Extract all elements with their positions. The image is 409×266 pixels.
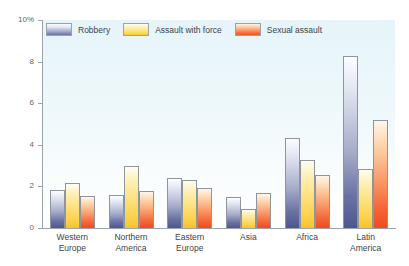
bar-3-1[interactable] bbox=[241, 209, 256, 228]
y-tick-label-4: 4 bbox=[0, 141, 34, 149]
bar-0-2[interactable] bbox=[80, 196, 95, 228]
y-tick-label-0: 0 bbox=[0, 224, 34, 232]
y-tick-label-2: 2 bbox=[0, 182, 34, 190]
bar-group-bars-0 bbox=[43, 20, 102, 228]
bar-4-2[interactable] bbox=[315, 175, 330, 228]
category-label-4: Africa bbox=[278, 232, 337, 253]
bar-group-4 bbox=[278, 20, 337, 228]
y-tick-mark-8 bbox=[38, 62, 42, 63]
y-tick-label-10: 10% bbox=[0, 16, 34, 24]
y-tick-mark-0 bbox=[38, 228, 42, 229]
bar-group-5 bbox=[336, 20, 395, 228]
bar-1-0[interactable] bbox=[109, 195, 124, 228]
bar-4-1[interactable] bbox=[300, 160, 315, 228]
bar-4-0[interactable] bbox=[285, 138, 300, 228]
bar-0-1[interactable] bbox=[65, 183, 80, 228]
x-axis-line bbox=[43, 228, 396, 229]
bar-group-bars-2 bbox=[160, 20, 219, 228]
category-label-5: LatinAmerica bbox=[336, 232, 395, 253]
bar-group-bars-5 bbox=[336, 20, 395, 228]
bar-5-2[interactable] bbox=[373, 120, 388, 228]
category-label-3: Asia bbox=[219, 232, 278, 253]
y-tick-mark-2 bbox=[38, 186, 42, 187]
bar-1-2[interactable] bbox=[139, 191, 154, 228]
bar-groups bbox=[43, 20, 395, 228]
x-axis-category-labels: WesternEuropeNorthernAmericaEasternEurop… bbox=[43, 232, 395, 253]
bar-group-0 bbox=[43, 20, 102, 228]
y-tick-label-8: 8 bbox=[0, 58, 34, 66]
bar-group-bars-3 bbox=[219, 20, 278, 228]
category-label-2: EasternEurope bbox=[160, 232, 219, 253]
bar-group-1 bbox=[102, 20, 161, 228]
bar-2-0[interactable] bbox=[167, 178, 182, 228]
bar-group-3 bbox=[219, 20, 278, 228]
bar-3-2[interactable] bbox=[256, 193, 271, 228]
bar-chart: 0246810% RobberyAssault with forceSexual… bbox=[0, 0, 409, 266]
bar-2-2[interactable] bbox=[197, 188, 212, 228]
y-tick-mark-6 bbox=[38, 103, 42, 104]
bar-group-bars-1 bbox=[102, 20, 161, 228]
y-tick-mark-10 bbox=[38, 20, 42, 21]
bar-2-1[interactable] bbox=[182, 180, 197, 228]
bar-3-0[interactable] bbox=[226, 197, 241, 228]
y-tick-label-6: 6 bbox=[0, 99, 34, 107]
bar-group-bars-4 bbox=[278, 20, 337, 228]
bar-5-0[interactable] bbox=[343, 56, 358, 228]
bar-group-2 bbox=[160, 20, 219, 228]
bar-5-1[interactable] bbox=[358, 169, 373, 228]
category-label-0: WesternEurope bbox=[43, 232, 102, 253]
y-tick-mark-4 bbox=[38, 145, 42, 146]
bar-0-0[interactable] bbox=[50, 190, 65, 228]
bar-1-1[interactable] bbox=[124, 166, 139, 228]
category-label-1: NorthernAmerica bbox=[102, 232, 161, 253]
